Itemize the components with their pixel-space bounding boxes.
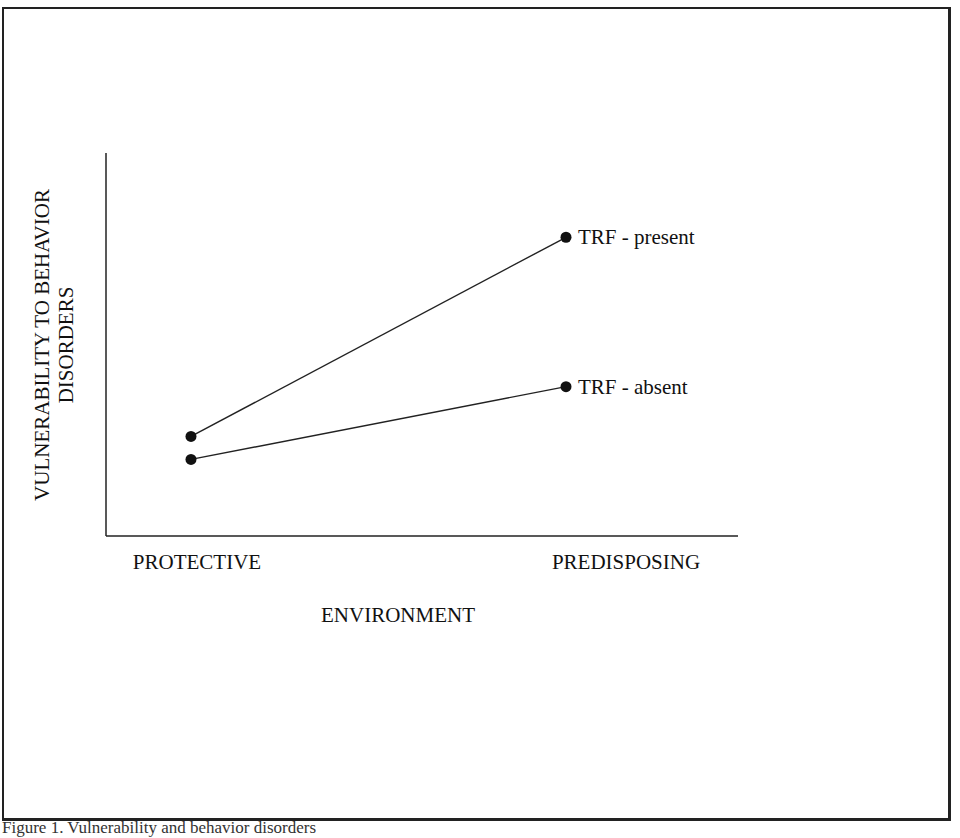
series-line-trf-present <box>191 237 566 436</box>
y-axis-label-line1: VULNERABILITY TO BEHAVIOR <box>30 189 54 501</box>
figure-caption: Figure 1. Vulnerability and behavior dis… <box>2 818 602 838</box>
x-tick-label-predisposing: PREDISPOSING <box>552 550 700 574</box>
series-line-trf-absent <box>191 387 566 460</box>
x-tick-label-protective: PROTECTIVE <box>133 550 261 574</box>
series-label-trf-present: TRF - present <box>578 225 695 249</box>
data-point-trf-present-protective <box>186 431 197 442</box>
y-axis-label-line2: DISORDERS <box>54 287 78 404</box>
data-point-trf-present-predisposing <box>561 232 572 243</box>
x-axis-label: ENVIRONMENT <box>321 603 475 627</box>
data-point-trf-absent-protective <box>186 454 197 465</box>
data-point-trf-absent-predisposing <box>561 381 572 392</box>
series-label-trf-absent: TRF - absent <box>578 375 688 399</box>
